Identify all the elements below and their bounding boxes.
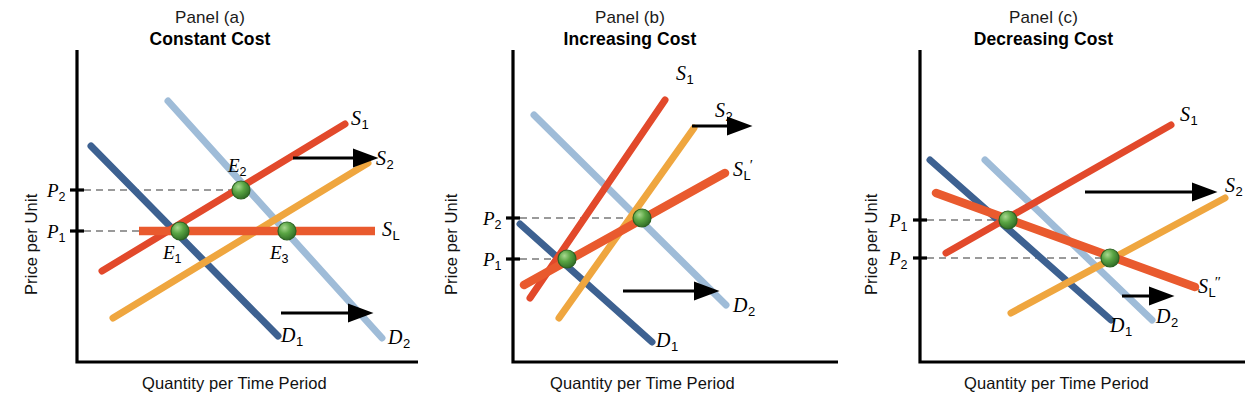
panel-b-price-label-p1: P1 xyxy=(483,250,502,273)
panel-b-plot xyxy=(420,0,840,401)
panel-c-price-label-p1: P1 xyxy=(889,211,908,234)
panel-a-eq-label-e1: E1 xyxy=(163,243,182,266)
panel-b-curve-label-s1: S1 xyxy=(676,63,694,86)
panel-a-curve-d1 xyxy=(91,146,278,336)
panel-a-curve-label-sl: SL xyxy=(382,219,400,242)
panel-b-equilibrium-dot-e1 xyxy=(558,250,576,268)
panel-c-curve-label-s2: S2 xyxy=(1225,175,1243,198)
panel-b-curve-sl-prime xyxy=(524,173,725,285)
panel-b-curve-label-d1: D1 xyxy=(656,330,678,353)
panel-c-equilibrium-dot-e2 xyxy=(1101,249,1119,267)
panel-a-equilibrium-dot-e1 xyxy=(171,222,189,240)
panel-c-curve-label-s1: S1 xyxy=(1180,104,1198,127)
panel-b-equilibrium-dot-e2 xyxy=(633,209,651,227)
panel-a-curve-label-s2: S2 xyxy=(376,148,394,171)
panel-c-curve-d1 xyxy=(930,160,1111,320)
panel-c-curve-label-d1: D1 xyxy=(1110,315,1132,338)
panel-c-price-label-p2: P2 xyxy=(889,249,908,272)
panel-b-curve-label-s2: S2 xyxy=(715,100,733,123)
panel-a-axes xyxy=(77,50,418,362)
panel-a-curve-label-d2: D2 xyxy=(388,327,410,350)
panel-a-eq-label-e2: E2 xyxy=(228,156,247,179)
panel-c-equilibrium-dot-e1 xyxy=(999,211,1017,229)
panel-b-curve-label-d2: D2 xyxy=(733,295,755,318)
panel-c-curve-label-d2: D2 xyxy=(1156,306,1178,329)
panel-a-curve-label-d1: D1 xyxy=(281,325,303,348)
panel-b-curve-label-sl-prime: SL′ xyxy=(733,158,753,182)
panel-a-equilibrium-dot-e3 xyxy=(278,222,296,240)
long-run-supply-figure: Panel (a) Constant Cost Price per Unit Q… xyxy=(0,0,1247,401)
panel-a-eq-label-e3: E3 xyxy=(270,243,289,266)
panel-c-curve-label-sl-double-prime: SL″ xyxy=(1198,275,1220,299)
panel-a-curve-label-s1: S1 xyxy=(351,108,369,131)
panel-b-increasing-cost: Panel (b) Increasing Cost Price per Unit… xyxy=(420,0,840,401)
panel-c-plot xyxy=(840,0,1247,401)
panel-c-decreasing-cost: Panel (c) Decreasing Cost Price per Unit… xyxy=(840,0,1247,401)
panel-a-constant-cost: Panel (a) Constant Cost Price per Unit Q… xyxy=(0,0,420,401)
panel-a-equilibrium-dot-e2 xyxy=(232,181,250,199)
panel-a-price-label-p2: P2 xyxy=(47,181,66,204)
panel-b-price-label-p2: P2 xyxy=(483,209,502,232)
panel-b-curve-d2 xyxy=(534,115,726,305)
panel-a-price-label-p1: P1 xyxy=(47,222,66,245)
